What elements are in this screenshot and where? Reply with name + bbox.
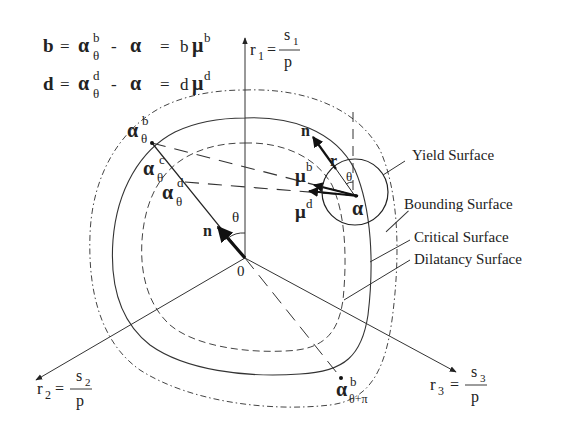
svg-text:b: b xyxy=(180,37,189,56)
theta-label-origin: θ xyxy=(232,209,239,225)
r3-label: r 3 = s 3 p xyxy=(430,363,487,406)
yield-surface-label: Yield Surface xyxy=(412,147,494,163)
svg-text:b: b xyxy=(142,113,149,128)
svg-text:2: 2 xyxy=(85,376,91,388)
svg-text:d: d xyxy=(180,75,189,94)
dilatancy-surface-label: Dilatancy Surface xyxy=(414,251,522,267)
bounding-leader xyxy=(383,211,412,232)
svg-text:b: b xyxy=(43,35,54,56)
dilatancy-surface xyxy=(142,143,345,351)
svg-text:3: 3 xyxy=(480,372,486,384)
svg-text:μ: μ xyxy=(192,34,204,57)
svg-text:1: 1 xyxy=(258,49,264,63)
svg-text:θ: θ xyxy=(141,131,147,146)
mu-b-label: μ b xyxy=(295,159,313,186)
svg-text:d: d xyxy=(177,175,184,190)
alpha-b-opposite-label: α b θ+π xyxy=(336,374,368,406)
svg-text:θ: θ xyxy=(93,48,99,63)
svg-text:μ: μ xyxy=(295,201,306,222)
svg-text:=: = xyxy=(60,37,70,56)
svg-text:α: α xyxy=(127,119,138,141)
svg-text:s: s xyxy=(76,367,82,384)
svg-text:b: b xyxy=(93,30,100,45)
opposite-direction-line xyxy=(245,258,341,378)
r3-axis xyxy=(245,258,456,372)
svg-text:2: 2 xyxy=(45,388,51,402)
svg-text:3: 3 xyxy=(438,384,444,398)
svg-text:p: p xyxy=(284,53,292,71)
svg-text:d: d xyxy=(93,68,100,83)
svg-text:=: = xyxy=(267,41,276,58)
svg-text:=: = xyxy=(60,75,70,94)
r2-label: r 2 = s 2 p xyxy=(37,367,92,410)
alpha-b-point xyxy=(150,141,154,145)
svg-text:α: α xyxy=(130,72,141,94)
svg-text:1: 1 xyxy=(293,35,299,47)
svg-text:=: = xyxy=(55,380,64,397)
svg-text:=: = xyxy=(160,75,170,94)
svg-text:s: s xyxy=(284,26,290,43)
svg-text:b: b xyxy=(306,159,313,174)
bounding-surface-label: Bounding Surface xyxy=(404,196,513,212)
svg-text:d: d xyxy=(43,73,54,94)
svg-text:c: c xyxy=(159,152,165,167)
r2-axis xyxy=(36,258,245,380)
svg-text:-: - xyxy=(111,37,117,56)
svg-text:μ: μ xyxy=(295,165,306,186)
svg-text:p: p xyxy=(76,392,84,410)
n-label-origin: n xyxy=(203,222,212,239)
svg-text:α: α xyxy=(143,157,154,179)
svg-text:α: α xyxy=(162,181,173,203)
r-label: r xyxy=(330,152,337,169)
svg-text:θ: θ xyxy=(176,194,182,209)
svg-text:=: = xyxy=(450,376,459,393)
svg-text:α: α xyxy=(78,34,89,56)
svg-text:p: p xyxy=(471,388,479,406)
mu-d-label: μ d xyxy=(295,196,313,222)
svg-text:b: b xyxy=(204,30,211,45)
equation-d: d = α d θ - α = d μ d xyxy=(43,68,211,101)
bounding-surface-diagram: b = α b θ - α = b μ b d = α d θ - α = d … xyxy=(0,0,566,437)
n-label-yield: n xyxy=(301,122,310,139)
equation-b: b = α b θ - α = b μ b xyxy=(43,30,211,63)
dilatancy-leader xyxy=(344,260,410,300)
svg-text:α: α xyxy=(336,378,347,400)
n-vector-origin xyxy=(218,227,245,258)
svg-text:α: α xyxy=(130,34,141,56)
svg-text:d: d xyxy=(306,196,313,211)
r1-label: r 1 = s 1 p xyxy=(250,26,300,71)
alpha-label: α xyxy=(352,197,363,219)
svg-text:r: r xyxy=(250,40,256,59)
origin-label: 0 xyxy=(237,263,245,279)
svg-text:-: - xyxy=(111,75,117,94)
svg-text:=: = xyxy=(160,37,170,56)
svg-text:s: s xyxy=(471,363,477,380)
alpha-b-label: α b θ xyxy=(127,113,149,146)
theta-label-yield: θ xyxy=(346,169,352,184)
critical-surface-label: Critical Surface xyxy=(414,229,509,245)
svg-text:θ: θ xyxy=(93,86,99,101)
svg-text:α: α xyxy=(78,72,89,94)
svg-text:θ+π: θ+π xyxy=(349,392,368,406)
svg-text:r: r xyxy=(37,379,43,398)
theta-arc-origin xyxy=(228,233,245,238)
critical-leader xyxy=(370,240,410,262)
svg-text:r: r xyxy=(430,375,436,394)
alpha-d-label: α d θ xyxy=(162,175,184,209)
svg-text:d: d xyxy=(204,68,211,83)
yield-leader xyxy=(383,161,405,175)
svg-text:μ: μ xyxy=(192,72,204,95)
svg-text:b: b xyxy=(350,374,357,389)
